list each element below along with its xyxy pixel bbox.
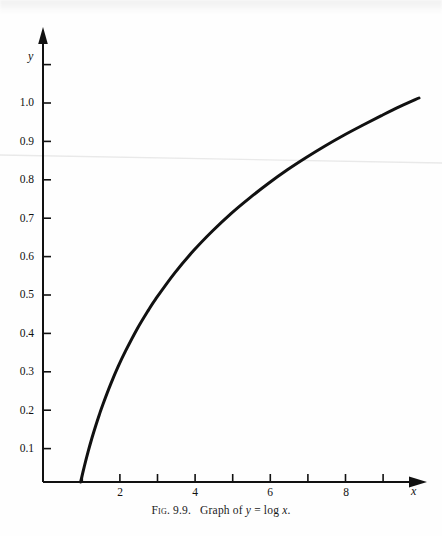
y-axis-label: y bbox=[28, 49, 33, 64]
x-axis-label: x bbox=[411, 484, 416, 499]
caption-fig-prefix: Fig. bbox=[151, 504, 170, 516]
log-curve-plot bbox=[0, 0, 442, 500]
x-tick-label-2: 2 bbox=[108, 486, 132, 498]
y-axis bbox=[38, 27, 48, 482]
figure-caption: Fig.9.9.Graph ofy=logx. bbox=[0, 504, 442, 516]
x-tick-label-8: 8 bbox=[334, 486, 358, 498]
caption-period: . bbox=[287, 504, 290, 516]
y-tick-label-0-6: 0.6 bbox=[0, 250, 34, 262]
y-tick-label-0-9: 0.9 bbox=[0, 135, 34, 147]
y-tick-label-0-1: 0.1 bbox=[0, 442, 34, 454]
figure-page: 0.1 0.2 0.3 0.4 0.5 0.6 0.7 0.8 0.9 1.0 … bbox=[0, 0, 442, 536]
x-tick-label-4: 4 bbox=[183, 486, 207, 498]
y-tick-label-0-7: 0.7 bbox=[0, 212, 34, 224]
x-axis-ticks bbox=[82, 474, 383, 482]
x-axis bbox=[43, 477, 427, 488]
caption-equals-sign: = bbox=[254, 504, 261, 516]
y-tick-label-0-2: 0.2 bbox=[0, 404, 34, 416]
y-tick-label-1-0: 1.0 bbox=[0, 96, 34, 108]
y-tick-label-0-5: 0.5 bbox=[0, 288, 34, 300]
caption-variable-y: y bbox=[246, 504, 251, 516]
x-tick-label-6: 6 bbox=[258, 486, 282, 498]
y-tick-label-0-8: 0.8 bbox=[0, 173, 34, 185]
caption-log-function: log bbox=[264, 504, 279, 516]
y-axis-ticks bbox=[43, 65, 51, 449]
log-curve bbox=[81, 98, 419, 482]
y-tick-label-0-3: 0.3 bbox=[0, 365, 34, 377]
caption-fig-number: 9.9. bbox=[173, 504, 191, 516]
caption-text: Graph of bbox=[200, 504, 243, 516]
y-tick-label-0-4: 0.4 bbox=[0, 327, 34, 339]
